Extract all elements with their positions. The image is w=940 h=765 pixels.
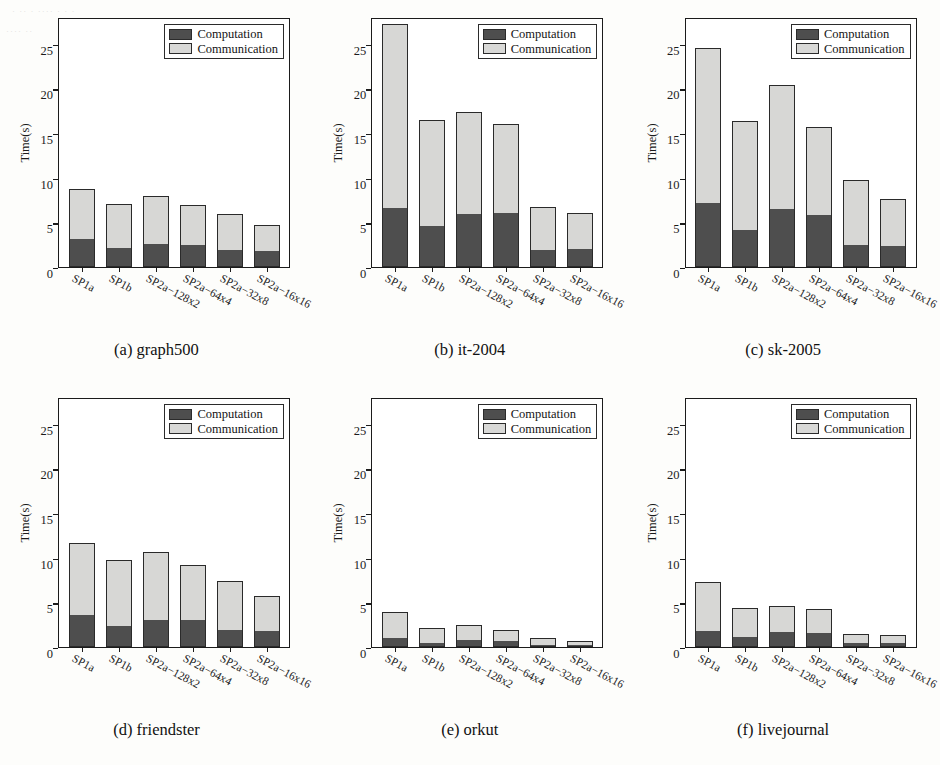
y-tick-mark: [53, 514, 58, 515]
legend-item-computation: Computation: [169, 28, 278, 41]
chart-panel-c: 0510152025Time(s)SP1aSP1bSP2a−128x2SP2a−…: [627, 0, 940, 330]
bar-d-5[interactable]: [254, 596, 280, 647]
x-tick-slot: SP2a−16x16: [254, 268, 280, 338]
x-tick-label: SP2a−16x16: [881, 652, 939, 690]
x-tick-slot: SP2a−128x2: [456, 268, 482, 338]
bar-e-5[interactable]: [567, 641, 593, 647]
y-tick-mark: [366, 134, 371, 135]
y-axis-label: Time(s): [18, 123, 33, 162]
y-tick-mark: [680, 134, 685, 135]
bar-segment-communication: [456, 112, 482, 215]
legend-label-computation: Computation: [197, 408, 262, 421]
bar-segment-communication: [382, 24, 408, 208]
bar-e-0[interactable]: [382, 612, 408, 647]
bar-c-3[interactable]: [806, 127, 832, 267]
y-tick-label: 5: [47, 224, 53, 237]
bar-f-3[interactable]: [806, 609, 832, 647]
x-tick-slot: SP2a−16x16: [567, 648, 593, 718]
x-tick-mark: [156, 648, 157, 652]
y-tick-label: 20: [354, 90, 367, 103]
y-axis-label: Time(s): [331, 503, 346, 542]
x-axis-labels-d: SP1aSP1bSP2a−128x2SP2a−64x4SP2a−32x8SP2a…: [59, 648, 289, 718]
legend-label-communication: Communication: [824, 43, 905, 56]
y-tick-label: 25: [667, 425, 680, 438]
legend-swatch-communication-icon: [796, 43, 819, 54]
subplot-caption-b: (b) it-2004: [313, 340, 626, 360]
y-tick-label: 15: [667, 514, 680, 527]
bar-e-2[interactable]: [456, 625, 482, 647]
x-tick-label: SP1b: [420, 272, 447, 294]
x-tick-mark: [745, 268, 746, 272]
legend-item-computation: Computation: [796, 28, 905, 41]
y-tick-label: 25: [354, 45, 367, 58]
bar-segment-communication: [254, 225, 280, 251]
y-tick-mark: [680, 648, 685, 649]
bar-a-0[interactable]: [69, 189, 95, 267]
bar-e-4[interactable]: [530, 638, 556, 647]
y-tick-mark: [366, 223, 371, 224]
x-tick-mark: [506, 648, 507, 652]
bar-a-3[interactable]: [180, 205, 206, 267]
bar-b-4[interactable]: [530, 207, 556, 267]
bar-segment-computation: [880, 246, 906, 267]
x-tick-mark: [156, 268, 157, 272]
bar-a-2[interactable]: [143, 196, 169, 267]
x-tick-mark: [782, 268, 783, 272]
y-tick-label: 10: [41, 179, 54, 192]
x-axis-labels-a: SP1aSP1bSP2a−128x2SP2a−64x4SP2a−32x8SP2a…: [59, 268, 289, 338]
bar-segment-computation: [493, 641, 519, 647]
x-tick-mark: [267, 648, 268, 652]
bar-d-4[interactable]: [217, 581, 243, 647]
bar-c-4[interactable]: [843, 180, 869, 267]
bar-e-1[interactable]: [419, 628, 445, 647]
bar-f-0[interactable]: [695, 582, 721, 647]
bar-segment-computation: [254, 251, 280, 267]
bar-f-4[interactable]: [843, 634, 869, 647]
legend-swatch-communication-icon: [169, 43, 192, 54]
bar-d-1[interactable]: [106, 560, 132, 647]
bar-d-3[interactable]: [180, 565, 206, 647]
subplot-caption-e: (e) orkut: [313, 720, 626, 740]
bar-segment-computation: [419, 226, 445, 267]
bar-c-1[interactable]: [732, 121, 758, 267]
y-tick-mark: [680, 223, 685, 224]
y-tick-label: 10: [354, 559, 367, 572]
bar-c-0[interactable]: [695, 48, 721, 267]
bar-a-4[interactable]: [217, 214, 243, 267]
bar-b-0[interactable]: [382, 24, 408, 267]
x-tick-mark: [506, 268, 507, 272]
bar-b-3[interactable]: [493, 124, 519, 267]
bar-c-2[interactable]: [769, 85, 795, 267]
x-tick-mark: [543, 268, 544, 272]
bar-b-2[interactable]: [456, 112, 482, 267]
y-tick-label: 5: [360, 224, 366, 237]
bar-f-1[interactable]: [732, 608, 758, 647]
legend-c: ComputationCommunication: [791, 24, 911, 59]
bar-f-5[interactable]: [880, 635, 906, 647]
x-tick-slot: SP2a−32x8: [843, 648, 869, 718]
bar-d-2[interactable]: [143, 552, 169, 647]
y-tick-label: 0: [360, 648, 366, 661]
y-tick-label: 0: [47, 268, 53, 281]
x-tick-label: SP1a: [383, 652, 410, 674]
bar-b-5[interactable]: [567, 213, 593, 267]
bar-segment-computation: [695, 631, 721, 647]
x-tick-slot: SP2a−16x16: [254, 648, 280, 718]
bar-b-1[interactable]: [419, 120, 445, 267]
bar-segment-computation: [695, 203, 721, 267]
bar-segment-communication: [695, 48, 721, 202]
bar-a-5[interactable]: [254, 225, 280, 267]
bar-segment-communication: [843, 180, 869, 245]
x-axis-labels-f: SP1aSP1bSP2a−128x2SP2a−64x4SP2a−32x8SP2a…: [686, 648, 916, 718]
y-tick-mark: [53, 603, 58, 604]
bar-segment-communication: [180, 565, 206, 620]
x-tick-label: SP2a−16x16: [255, 652, 313, 690]
y-tick-mark: [53, 559, 58, 560]
bar-a-1[interactable]: [106, 204, 132, 267]
bar-e-3[interactable]: [493, 630, 519, 647]
bar-f-2[interactable]: [769, 606, 795, 647]
bar-d-0[interactable]: [69, 543, 95, 647]
bar-segment-communication: [493, 630, 519, 641]
bar-c-5[interactable]: [880, 199, 906, 267]
x-tick-mark: [893, 268, 894, 272]
